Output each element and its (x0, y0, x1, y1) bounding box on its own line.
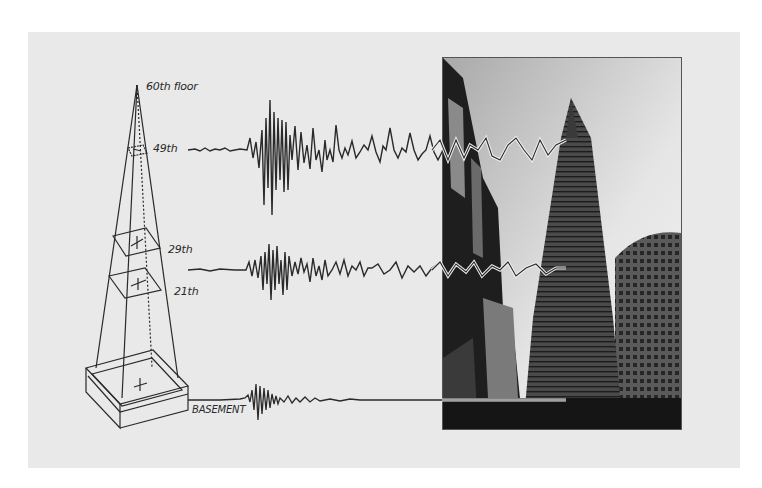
label-29th-floor: 29th (168, 243, 192, 256)
label-basement: BASEMENT (192, 404, 245, 415)
label-49th-floor: 49th (153, 142, 177, 155)
trace-29th-floor (188, 244, 440, 300)
label-60th-floor: 60th floor (146, 80, 198, 93)
trace-49th-floor (188, 100, 446, 215)
seismograph-diagram (0, 0, 762, 488)
label-21th-floor: 21th (174, 285, 198, 298)
pyramid-wireframe (86, 85, 188, 428)
